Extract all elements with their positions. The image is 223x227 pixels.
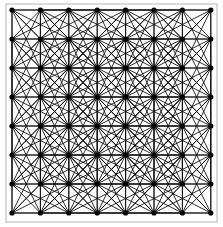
graph-node (95, 94, 100, 99)
graph-node (180, 94, 185, 99)
graph-node (208, 65, 213, 70)
graph-node (180, 7, 185, 12)
graph-node (151, 7, 156, 12)
graph-node (151, 152, 156, 157)
graph-node (38, 94, 43, 99)
graph-node (66, 123, 71, 128)
graph-node (95, 65, 100, 70)
graph-node (123, 123, 128, 128)
graph-node (9, 123, 14, 128)
graph-node (208, 152, 213, 157)
graph-node (66, 7, 71, 12)
graph-node (9, 36, 14, 41)
graph-node (151, 210, 156, 215)
graph-node (95, 123, 100, 128)
graph-node (123, 210, 128, 215)
graph-node (66, 181, 71, 186)
graph-node (151, 65, 156, 70)
graph-node (38, 152, 43, 157)
graph-node (9, 65, 14, 70)
graph-node (9, 181, 14, 186)
graph-node (38, 210, 43, 215)
graph-node (95, 210, 100, 215)
graph-node (66, 152, 71, 157)
graph-node (123, 7, 128, 12)
graph-node (123, 181, 128, 186)
graph-node (180, 181, 185, 186)
graph-node (123, 94, 128, 99)
graph-node (123, 36, 128, 41)
graph-node (9, 152, 14, 157)
graph-node (180, 210, 185, 215)
graph-node (151, 181, 156, 186)
graph-node (95, 36, 100, 41)
graph-node (151, 94, 156, 99)
graph-node (123, 65, 128, 70)
graph-node (180, 123, 185, 128)
diagram-container (0, 0, 223, 227)
graph-node (9, 7, 14, 12)
graph-node (9, 94, 14, 99)
graph-node (123, 152, 128, 157)
graph-node (180, 36, 185, 41)
graph-node (151, 123, 156, 128)
graph-node (38, 65, 43, 70)
graph-node (95, 7, 100, 12)
graph-node (38, 36, 43, 41)
graph-node (38, 123, 43, 128)
graph-node (208, 94, 213, 99)
graph-node (180, 65, 185, 70)
graph-node (208, 210, 213, 215)
graph-node (95, 152, 100, 157)
graph-node (9, 210, 14, 215)
graph-node (95, 181, 100, 186)
graph-node (38, 7, 43, 12)
graph-node (38, 181, 43, 186)
graph-node (66, 210, 71, 215)
graph-node (208, 123, 213, 128)
graph-node (208, 7, 213, 12)
graph-node (66, 65, 71, 70)
graph-node (66, 94, 71, 99)
graph-node (151, 36, 156, 41)
graph-node (66, 36, 71, 41)
graph-node (208, 181, 213, 186)
graph-node (180, 152, 185, 157)
graph-canvas (0, 0, 223, 227)
graph-node (208, 36, 213, 41)
